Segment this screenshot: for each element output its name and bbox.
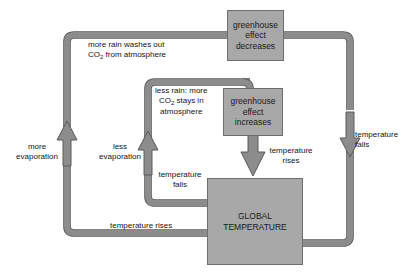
label-more-evaporation: more evaporation	[6, 142, 68, 163]
box-greenhouse-effect-increases-text: greenhouse effect increases	[231, 96, 276, 127]
box-greenhouse-effect-decreases-text: greenhouse effect decreases	[233, 20, 278, 51]
temperature-falls-inner-line2: falls	[173, 180, 187, 189]
less-evaporation-line2: evaporation	[99, 152, 141, 161]
more-rain-line1: more rain washes out	[88, 40, 164, 49]
co2-text-inner: CO	[159, 96, 171, 105]
box-greenhouse-effect-increases: greenhouse effect increases	[223, 88, 283, 136]
box-greenhouse-effect-decreases: greenhouse effect decreases	[227, 10, 284, 61]
less-rain-line2: CO2 stays in	[159, 96, 204, 105]
gh-increase-line2: effect	[243, 107, 264, 117]
temperature-rises-center-line2: rises	[283, 156, 300, 165]
temperature-falls-right-line2: falls	[355, 140, 369, 149]
more-rain-line2-post: from atmosphere	[103, 50, 166, 59]
box-global-temperature: GLOBAL TEMPERATURE	[207, 178, 303, 265]
box-global-temperature-text: GLOBAL TEMPERATURE	[223, 211, 287, 232]
label-temperature-rises-bottom: temperature rises	[110, 221, 172, 231]
gh-increase-line1: greenhouse	[231, 96, 276, 106]
co2-text: CO	[88, 50, 100, 59]
less-rain-line3: atmosphere	[160, 107, 202, 116]
temperature-rises-center-line1: temperature	[269, 146, 312, 155]
co2-subscript: 2	[100, 54, 103, 60]
gh-decrease-line3: decreases	[236, 41, 275, 51]
label-temperature-falls-inner: temperature falls	[152, 170, 208, 191]
gh-increase-line3: increases	[235, 117, 271, 127]
label-more-rain-washes-out-co2: more rain washes out CO2 from atmosphere	[88, 40, 166, 61]
diagram-canvas: .pipe { fill: none; stroke: #8c8c8c; str…	[0, 0, 415, 273]
more-evaporation-line2: evaporation	[16, 152, 58, 161]
label-temperature-rises-center: temperature rises	[262, 146, 320, 167]
co2-subscript-inner: 2	[171, 100, 174, 106]
global-temp-line2: TEMPERATURE	[223, 222, 287, 232]
label-temperature-falls-right: temperature falls	[355, 130, 411, 151]
temperature-falls-right-line1: temperature	[355, 130, 398, 139]
more-evaporation-line1: more	[28, 142, 46, 151]
less-evaporation-line1: less	[113, 142, 127, 151]
gh-decrease-line1: greenhouse	[233, 20, 278, 30]
temperature-falls-inner-line1: temperature	[158, 170, 201, 179]
gh-decrease-line2: effect	[245, 30, 266, 40]
label-less-rain-more-co2-stays: less rain: more CO2 stays in atmosphere	[155, 86, 207, 117]
more-rain-line2: CO2 from atmosphere	[88, 50, 166, 59]
less-rain-line1: less rain: more	[155, 86, 207, 95]
label-less-evaporation: less evaporation	[92, 142, 148, 163]
less-rain-line2-post: stays in	[174, 96, 203, 105]
global-temp-line1: GLOBAL	[238, 211, 272, 221]
